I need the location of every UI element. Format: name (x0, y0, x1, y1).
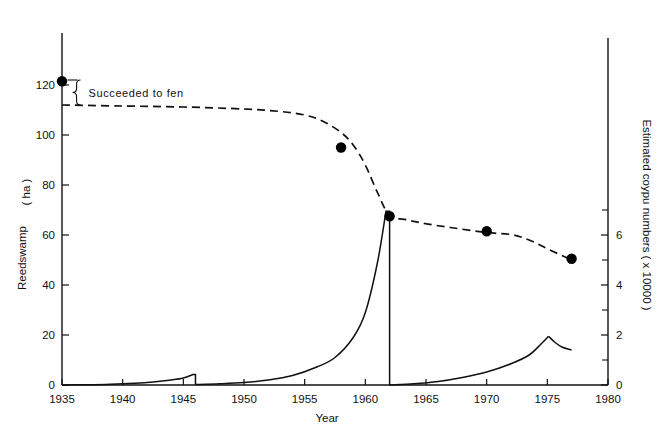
data-point-marker (566, 254, 576, 264)
x-tick-label: 1980 (595, 393, 621, 405)
y-tick-label-left: 100 (36, 129, 55, 141)
y-tick-label-right: 4 (616, 279, 623, 291)
y-tick-label-right: 6 (616, 229, 622, 241)
x-tick-label: 1945 (171, 393, 197, 405)
data-point-marker (481, 226, 491, 236)
y-tick-label-left: 40 (42, 279, 55, 291)
x-axis-title: Year (315, 412, 338, 424)
x-tick-label: 1975 (535, 393, 561, 405)
x-tick-label: 1955 (292, 393, 318, 405)
data-point-marker (384, 211, 394, 221)
x-tick-label: 1960 (353, 393, 379, 405)
y-axis-title-left: Reedswamp (16, 226, 28, 290)
annotation-succeeded-to-fen: Succeeded to fen (89, 87, 184, 99)
chart-background (0, 0, 661, 440)
y-tick-label-right: 2 (616, 329, 622, 341)
data-point-marker (336, 142, 346, 152)
x-tick-label: 1970 (474, 393, 500, 405)
y-axis-unit-left: ( ha ) (20, 178, 32, 205)
chart-plot-area: Succeeded to fen 19351940194519501955196… (0, 0, 661, 440)
data-point-marker (57, 76, 67, 86)
y-tick-label-left: 60 (42, 229, 55, 241)
x-tick-label: 1965 (413, 393, 439, 405)
y-tick-label-left: 80 (42, 179, 55, 191)
x-tick-label: 1935 (49, 393, 75, 405)
y-tick-label-right: 0 (616, 379, 622, 391)
x-tick-label: 1950 (231, 393, 257, 405)
y-tick-label-left: 20 (42, 329, 55, 341)
chart-figure: Succeeded to fen 19351940194519501955196… (0, 0, 661, 440)
x-tick-label: 1940 (110, 393, 136, 405)
y-tick-label-left: 0 (49, 379, 55, 391)
y-tick-label-left: 120 (36, 79, 55, 91)
y-axis-title-right: Estimated coypu numbers ( x 10000 ) (641, 119, 653, 310)
